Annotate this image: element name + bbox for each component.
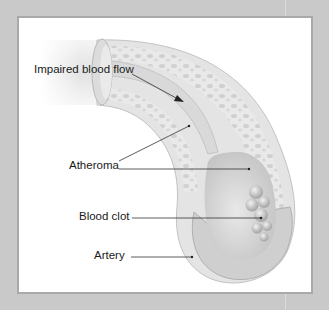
label-atheroma: Atheroma xyxy=(69,159,119,172)
diagram-panel: Impaired blood flow Atheroma Blood clot … xyxy=(17,16,313,294)
artery-illustration xyxy=(19,18,313,294)
label-impaired-blood-flow: Impaired blood flow xyxy=(34,63,134,76)
label-artery: Artery xyxy=(94,249,125,262)
label-blood-clot: Blood clot xyxy=(79,210,130,223)
